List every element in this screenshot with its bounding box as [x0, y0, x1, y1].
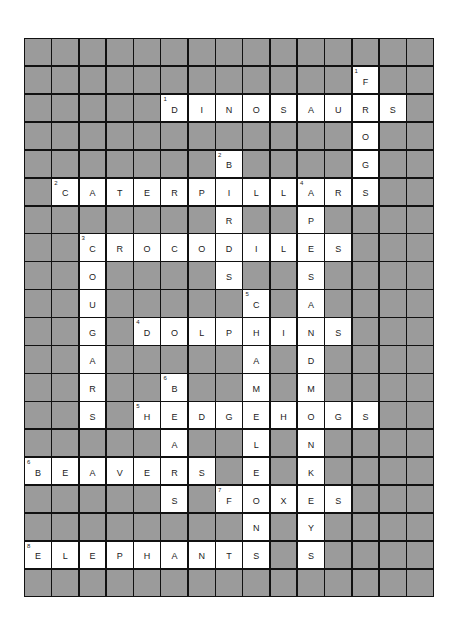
letter-cell[interactable]: M [298, 374, 324, 400]
block-cell [298, 570, 324, 596]
letter-cell[interactable]: A [161, 542, 187, 568]
letter-cell[interactable]: S [298, 262, 324, 288]
letter-cell[interactable]: P [107, 542, 133, 568]
letter-cell[interactable]: A [298, 290, 324, 316]
letter-cell[interactable]: S [161, 486, 187, 512]
letter-cell[interactable]: N [298, 430, 324, 456]
letter-cell[interactable]: R [161, 179, 187, 205]
letter-cell[interactable]: 1D [161, 95, 187, 121]
letter-cell[interactable]: C [161, 234, 187, 260]
letter-cell[interactable]: G [325, 402, 351, 428]
letter-cell[interactable]: X [271, 486, 297, 512]
letter-cell[interactable]: 8E [25, 542, 51, 568]
letter-cell[interactable]: 4D [134, 318, 160, 344]
letter-cell[interactable]: E [298, 234, 324, 260]
letter-cell[interactable]: A [161, 430, 187, 456]
letter-cell[interactable]: A [243, 346, 269, 372]
letter-cell[interactable]: S [271, 95, 297, 121]
letter-cell[interactable]: S [353, 179, 379, 205]
letter-cell[interactable]: Y [298, 514, 324, 540]
letter-cell[interactable]: E [298, 486, 324, 512]
letter-cell[interactable]: 6B [161, 374, 187, 400]
letter-cell[interactable]: U [325, 95, 351, 121]
letter-cell[interactable]: L [189, 318, 215, 344]
letter-cell[interactable]: R [161, 458, 187, 484]
letter-cell[interactable]: D [298, 346, 324, 372]
letter-cell[interactable]: O [353, 123, 379, 149]
letter-cell[interactable]: S [325, 234, 351, 260]
letter-cell[interactable]: I [216, 179, 242, 205]
letter-cell[interactable]: E [80, 542, 106, 568]
letter-cell[interactable]: 6B [25, 458, 51, 484]
letter-cell[interactable]: G [216, 402, 242, 428]
letter-cell[interactable]: S [380, 95, 406, 121]
letter-cell[interactable]: T [107, 179, 133, 205]
letter-cell[interactable]: S [216, 262, 242, 288]
letter-cell[interactable]: I [271, 318, 297, 344]
letter-cell[interactable]: L [243, 179, 269, 205]
letter-cell[interactable]: 5H [134, 402, 160, 428]
letter-cell[interactable]: S [189, 458, 215, 484]
letter-cell[interactable]: G [353, 151, 379, 177]
letter-cell[interactable]: 2B [216, 151, 242, 177]
letter-cell[interactable]: P [298, 207, 324, 233]
letter-cell[interactable]: D [189, 402, 215, 428]
letter-cell[interactable]: 5C [243, 290, 269, 316]
letter-cell[interactable]: R [353, 95, 379, 121]
letter-cell[interactable]: V [107, 458, 133, 484]
letter-cell[interactable]: P [189, 179, 215, 205]
letter-cell[interactable]: A [298, 95, 324, 121]
letter-cell[interactable]: S [243, 542, 269, 568]
letter-cell[interactable]: R [216, 207, 242, 233]
letter-cell[interactable]: G [80, 318, 106, 344]
letter-cell[interactable]: R [80, 374, 106, 400]
letter-cell[interactable]: N [298, 318, 324, 344]
letter-cell[interactable]: S [325, 486, 351, 512]
letter-cell[interactable]: O [243, 95, 269, 121]
letter-cell[interactable]: 4A [298, 179, 324, 205]
letter-cell[interactable]: L [243, 430, 269, 456]
letter-cell[interactable]: O [298, 402, 324, 428]
letter-cell[interactable]: P [216, 318, 242, 344]
letter-cell[interactable]: S [298, 542, 324, 568]
letter-cell[interactable]: S [353, 402, 379, 428]
letter-cell[interactable]: O [161, 318, 187, 344]
letter-cell[interactable]: 1F [353, 67, 379, 93]
letter-cell[interactable]: M [243, 374, 269, 400]
letter-cell[interactable]: O [134, 234, 160, 260]
letter-cell[interactable]: A [80, 458, 106, 484]
letter-cell[interactable]: 3C [80, 234, 106, 260]
letter-cell[interactable]: I [243, 234, 269, 260]
letter-cell[interactable]: 2C [52, 179, 78, 205]
letter-cell[interactable]: T [216, 542, 242, 568]
letter-cell[interactable]: H [243, 318, 269, 344]
letter-cell[interactable]: E [243, 458, 269, 484]
letter-cell[interactable]: E [243, 402, 269, 428]
letter-cell[interactable]: E [134, 458, 160, 484]
letter-cell[interactable]: O [243, 486, 269, 512]
letter-cell[interactable]: O [189, 234, 215, 260]
letter-cell[interactable]: S [325, 318, 351, 344]
letter-cell[interactable]: H [271, 402, 297, 428]
letter-cell[interactable]: 7F [216, 486, 242, 512]
letter-cell[interactable]: L [271, 234, 297, 260]
letter-cell[interactable]: K [298, 458, 324, 484]
letter-cell[interactable]: A [80, 346, 106, 372]
letter-cell[interactable]: S [80, 402, 106, 428]
letter-cell[interactable]: N [216, 95, 242, 121]
letter-cell[interactable]: N [189, 542, 215, 568]
letter-cell[interactable]: O [80, 262, 106, 288]
letter-cell[interactable]: D [216, 234, 242, 260]
letter-cell[interactable]: E [134, 179, 160, 205]
letter-cell[interactable]: L [52, 542, 78, 568]
letter-cell[interactable]: A [80, 179, 106, 205]
letter-cell[interactable]: E [52, 458, 78, 484]
letter-cell[interactable]: U [80, 290, 106, 316]
letter-cell[interactable]: R [107, 234, 133, 260]
letter-cell[interactable]: H [134, 542, 160, 568]
letter-cell[interactable]: E [161, 402, 187, 428]
letter-cell[interactable]: I [189, 95, 215, 121]
letter-cell[interactable]: L [271, 179, 297, 205]
letter-cell[interactable]: R [325, 179, 351, 205]
letter-cell[interactable]: N [243, 514, 269, 540]
